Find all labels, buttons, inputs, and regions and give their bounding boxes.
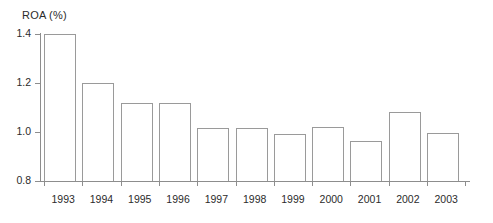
bar [389,112,421,181]
y-axis-tick: 1.0 [35,132,41,133]
roa-bar-chart: ROA (%) 0.81.01.21.4 1993199419951996199… [0,0,493,223]
x-axis-tick [159,181,160,186]
x-axis-label: 1999 [281,193,304,205]
x-axis-label: 1997 [205,193,228,205]
bar [274,134,306,181]
x-axis-tick [274,181,275,186]
x-axis-label: 2001 [358,193,381,205]
bar [427,133,459,181]
y-axis-tick-label: 1.2 [16,76,31,88]
chart-title: ROA (%) [22,9,67,21]
x-axis-tick [236,181,237,186]
y-axis-tick-label: 1.0 [16,125,31,137]
x-axis-label: 1996 [166,193,189,205]
x-axis-label: 2002 [396,193,419,205]
x-axis-tick [44,181,45,186]
x-axis-tick [312,181,313,186]
bar [121,103,153,181]
bar [82,83,114,181]
x-axis-line [40,181,470,182]
x-axis-tick [82,181,83,186]
bar [236,128,268,181]
x-axis-label: 1994 [90,193,113,205]
x-axis-tick [350,181,351,186]
x-axis-label: 2003 [434,193,457,205]
y-axis-tick: 1.4 [35,34,41,35]
bar [197,128,229,181]
x-axis-tick [465,181,466,186]
y-axis-tick-label: 1.4 [16,27,31,39]
y-axis-line [40,33,41,182]
y-axis-tick: 0.8 [35,181,41,182]
bar [44,34,76,181]
y-axis-tick-label: 0.8 [16,174,31,186]
bar [159,103,191,181]
x-axis-tick [121,181,122,186]
x-axis-tick [389,181,390,186]
y-axis-tick: 1.2 [35,83,41,84]
x-axis-label: 1993 [51,193,74,205]
x-axis-tick [427,181,428,186]
bar [350,141,382,181]
x-axis-label: 2000 [320,193,343,205]
x-axis-label: 1995 [128,193,151,205]
bar [312,127,344,181]
x-axis-tick [197,181,198,186]
x-axis-label: 1998 [243,193,266,205]
